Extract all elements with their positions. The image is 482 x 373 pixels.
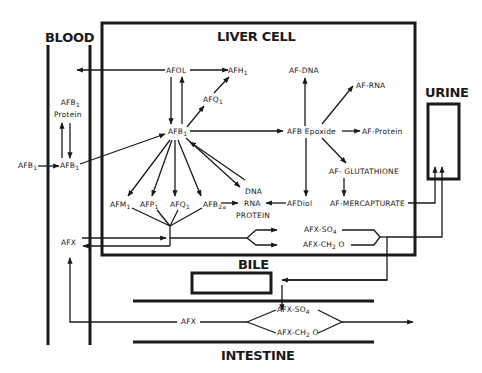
node-protein: PROTEIN bbox=[236, 212, 270, 220]
node-af-glutathione: AF- GLUTATHIONE bbox=[329, 168, 399, 176]
node-afx-so4-intestine: AFX-SO4 bbox=[277, 306, 310, 315]
bile-box bbox=[192, 273, 271, 293]
node-af-dna: AF-DNA bbox=[289, 67, 319, 75]
intestine-title: INTESTINE bbox=[221, 349, 295, 362]
node-af-mercapturate: AF-MERCAPTURATE bbox=[330, 200, 405, 208]
blood-title: BLOOD bbox=[45, 31, 94, 44]
node-afb1-liver: AFB1 bbox=[168, 128, 187, 137]
bile-title: BILE bbox=[238, 258, 269, 271]
node-af-protein: AF-Protein bbox=[362, 128, 402, 136]
node-afq1-lower: AFQ1 bbox=[170, 201, 190, 210]
node-afol: AFOL bbox=[166, 67, 186, 75]
node-afb1-blood: AFB1 bbox=[60, 162, 79, 171]
node-afb1-protein: AFB1 Protein bbox=[54, 99, 82, 119]
node-afh1: AFH1 bbox=[228, 67, 248, 76]
node-afx-so4-liver: AFX-SO4 bbox=[304, 226, 337, 235]
node-afb-epoxide: AFB Epoxide bbox=[287, 128, 336, 136]
liver-cell-title: LIVER CELL bbox=[217, 30, 296, 43]
urine-title: URINE bbox=[425, 86, 469, 99]
node-afm1: AFM1 bbox=[110, 201, 131, 210]
urine-box bbox=[428, 104, 459, 179]
node-afx-intestine: AFX bbox=[181, 318, 196, 326]
node-afdiol: AFDiol bbox=[287, 200, 312, 208]
node-afb2a: AFB2a bbox=[203, 201, 226, 210]
node-afp1: AFP1 bbox=[140, 201, 159, 210]
node-afx-ch2o-liver: AFX-CH2 O bbox=[303, 241, 345, 250]
node-rna: RNA bbox=[244, 200, 261, 208]
node-afq1-upper: AFQ1 bbox=[203, 96, 223, 105]
node-af-rna: AF-RNA bbox=[356, 82, 385, 90]
node-dna: DNA bbox=[245, 188, 262, 196]
pathway-diagram-lines bbox=[0, 0, 482, 373]
node-afx-ch2o-intestine: AFX-CH2 O bbox=[277, 329, 319, 338]
node-afb1-blood-in: AFB1 bbox=[18, 162, 37, 171]
node-afx-blood: AFX bbox=[61, 239, 76, 247]
